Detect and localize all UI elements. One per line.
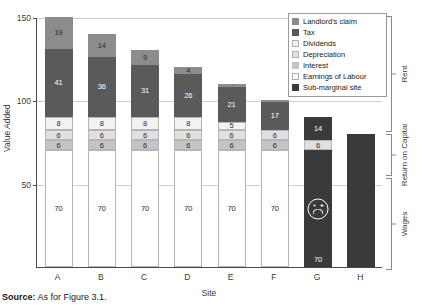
legend-label: Depreciation [303, 50, 345, 59]
bar-segment: 70 [304, 150, 332, 267]
bracket-label: Return on Capital [400, 124, 409, 186]
x-axis-tick-label: G [296, 272, 339, 282]
bar-segment-value: 6 [230, 132, 234, 140]
bar-segment: 6 [304, 140, 332, 150]
bar-segment-value: 31 [141, 87, 149, 95]
bar-segment: 6 [45, 130, 73, 140]
legend-item[interactable]: Earnings of Labour [292, 71, 383, 82]
x-axis-tick-label: H [339, 272, 382, 282]
x-axis-tick-label: D [166, 272, 209, 282]
bar-segment: 70 [174, 150, 202, 267]
bar-segment-value: 36 [98, 83, 106, 91]
bar-segment-value: 70 [314, 256, 322, 264]
bar-segment: 17 [261, 102, 289, 130]
bracket-tick [392, 155, 396, 156]
bar-segment: 9 [131, 50, 159, 65]
legend-item[interactable]: Dividends [292, 38, 383, 49]
bar-segment-value: 6 [273, 132, 277, 140]
bar-c[interactable]: 70668319 [131, 50, 159, 267]
legend-label: Earnings of Labour [303, 72, 366, 81]
bar-segment: 2 [218, 84, 246, 87]
bar-segment-value: 6 [230, 142, 234, 150]
bar-segment-value: 41 [54, 79, 62, 87]
bar-segment: 6 [218, 130, 246, 140]
bar-segment-value: 9 [143, 54, 147, 62]
bar-g[interactable]: 70614 [304, 117, 332, 267]
bar-f[interactable]: 7066171 [261, 100, 289, 267]
x-axis-tick-label: A [36, 272, 79, 282]
bar-segment-value: 21 [227, 101, 235, 109]
bar-segment: 70 [88, 150, 116, 267]
legend-swatch-icon [292, 29, 299, 36]
bar-segment: 14 [88, 34, 116, 57]
y-axis-tick-label: 50 [22, 180, 31, 190]
y-axis-title: Value Added [2, 104, 12, 152]
bar-segment-value: 70 [54, 205, 62, 213]
bar-segment-value: 17 [271, 112, 279, 120]
bar-segment: 5 [218, 122, 246, 130]
bar-segment: 26 [174, 74, 202, 117]
bar-segment: 8 [45, 117, 73, 130]
bar-segment-value: 8 [57, 120, 61, 128]
bar-segment-value: 1 [273, 100, 277, 102]
bar-segment-value: 70 [227, 205, 235, 213]
source-label: Source: [2, 292, 36, 302]
legend-item[interactable]: Interest [292, 60, 383, 71]
bar-segment-value: 6 [273, 142, 277, 150]
bar-segment-value: 6 [143, 132, 147, 140]
bar-segment-value: 6 [186, 142, 190, 150]
legend: Landlord's claimTaxDividendsDepreciation… [288, 13, 387, 97]
bar-segment: 31 [131, 65, 159, 117]
bar-segment-value: 14 [98, 42, 106, 50]
legend-item[interactable]: Depreciation [292, 49, 383, 60]
legend-item[interactable]: Landlord's claim [292, 16, 383, 27]
bar-segment-value: 19 [54, 29, 62, 37]
bar-segment-value: 6 [57, 132, 61, 140]
bar-segment: 6 [218, 140, 246, 150]
bar-segment: 70 [261, 150, 289, 267]
bar-segment: 36 [88, 57, 116, 117]
bar-segment-value: 8 [100, 120, 104, 128]
x-axis-tick-label: E [209, 272, 252, 282]
bracket-label: Wages [400, 212, 409, 237]
bracket-tick [392, 224, 396, 225]
bar-d[interactable]: 70668264 [174, 67, 202, 267]
legend-label: Landlord's claim [303, 17, 357, 26]
bar-segment: 19 [45, 17, 73, 49]
x-axis-tick-label: B [79, 272, 122, 282]
legend-item[interactable]: Sub-marginal site [292, 82, 383, 93]
bar-h[interactable] [347, 134, 375, 267]
bar-segment: 14 [304, 117, 332, 140]
bar-a[interactable]: 706684119 [45, 17, 73, 267]
bracket-tick [392, 74, 396, 75]
bar-segment-value: 8 [186, 120, 190, 128]
bar-segment: 4 [174, 67, 202, 74]
bar-segment: 6 [88, 130, 116, 140]
legend-swatch-icon [292, 73, 299, 80]
bar-segment-value: 6 [100, 142, 104, 150]
bar-segment: 6 [45, 140, 73, 150]
legend-swatch-icon [292, 18, 299, 25]
bar-segment-value: 6 [186, 132, 190, 140]
bar-segment: 70 [218, 150, 246, 267]
bar-e[interactable]: 70665212 [218, 84, 246, 267]
bar-segment: 6 [131, 140, 159, 150]
bar-segment-value: 4 [186, 67, 190, 74]
x-axis-tick-label: F [252, 272, 295, 282]
bar-segment-value: 70 [141, 205, 149, 213]
bar-b[interactable]: 706683614 [88, 34, 116, 267]
bar-segment [347, 134, 375, 267]
legend-swatch-icon [292, 62, 299, 69]
bar-segment: 41 [45, 49, 73, 117]
source-text: As for Figure 3.1. [38, 292, 107, 302]
bar-segment: 8 [131, 117, 159, 130]
bracket-label: Rent [400, 66, 409, 83]
bar-segment: 70 [131, 150, 159, 267]
bar-segment: 1 [261, 100, 289, 102]
y-axis-tick-label: 150 [17, 13, 31, 23]
legend-item[interactable]: Tax [292, 27, 383, 38]
bar-segment-value: 2 [230, 84, 234, 87]
bar-segment: 8 [88, 117, 116, 130]
source-note: Source: As for Figure 3.1. [2, 292, 107, 302]
x-axis-tick-label: C [123, 272, 166, 282]
